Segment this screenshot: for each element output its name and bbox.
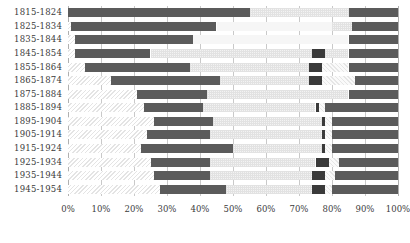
bar-segment-hatch bbox=[68, 185, 160, 194]
stacked-bar bbox=[68, 117, 398, 126]
bar-segment-lightdot bbox=[226, 185, 312, 194]
bar-segment-dark bbox=[325, 103, 398, 112]
stacked-bar bbox=[68, 76, 398, 85]
x-axis-tick-label: 60% bbox=[257, 204, 276, 214]
x-axis-tick-label: 100% bbox=[386, 204, 410, 214]
y-axis-label: 1855-1864 bbox=[14, 63, 62, 72]
x-axis-tick-label: 40% bbox=[191, 204, 210, 214]
stacked-bar bbox=[68, 158, 398, 167]
bar-segment-dark bbox=[111, 76, 220, 85]
y-axis-label: 1875-1884 bbox=[14, 90, 62, 99]
bar-row bbox=[68, 90, 398, 99]
bar-segment-hatch bbox=[68, 117, 154, 126]
bar-segment-lightdot bbox=[203, 103, 315, 112]
bar-segment-hatch bbox=[68, 158, 151, 167]
bar-segment-hatchr bbox=[319, 103, 326, 112]
plot-area bbox=[68, 6, 398, 196]
y-axis-label: 1885-1894 bbox=[14, 103, 62, 112]
bar-segment-hatchr bbox=[325, 130, 332, 139]
bar-segment-dark bbox=[75, 49, 151, 58]
x-axis-tick-label: 50% bbox=[224, 204, 243, 214]
y-axis-label: 1895-1904 bbox=[14, 117, 62, 126]
bar-segment-hatchr bbox=[325, 144, 332, 153]
bar-segment-dark bbox=[147, 130, 210, 139]
stacked-bar bbox=[68, 130, 398, 139]
bar-segment-lightdot bbox=[233, 144, 322, 153]
bar-row bbox=[68, 144, 398, 153]
stacked-bar bbox=[68, 171, 398, 180]
stacked-bar bbox=[68, 35, 398, 44]
bar-segment-lightdot bbox=[210, 171, 312, 180]
bar-segment-dark bbox=[154, 117, 213, 126]
bar-segment-hatchr bbox=[322, 76, 355, 85]
x-axis-tick-label: 10% bbox=[92, 204, 111, 214]
stacked-bar bbox=[68, 144, 398, 153]
bar-segment-dark bbox=[335, 171, 398, 180]
bar-segment-hatch bbox=[68, 103, 144, 112]
bar-segment-lightdot bbox=[207, 90, 349, 99]
bar-segment-dark bbox=[154, 171, 210, 180]
bar-segment-hatch bbox=[68, 76, 111, 85]
bar-segment-lightdot bbox=[151, 49, 313, 58]
bar-segment-hatch bbox=[68, 171, 154, 180]
bar-segment-dark bbox=[349, 63, 399, 72]
x-axis-tick-label: 0% bbox=[61, 204, 75, 214]
bar-segment-hatch bbox=[68, 144, 141, 153]
bar-segment-dark2 bbox=[312, 185, 325, 194]
bar-segment-dark bbox=[339, 158, 398, 167]
bar-row bbox=[68, 158, 398, 167]
bar-segment-dark bbox=[332, 117, 398, 126]
y-axis-label: 1845-1854 bbox=[14, 49, 62, 58]
bar-segment-dark bbox=[349, 49, 399, 58]
bar-segment-dark bbox=[355, 76, 398, 85]
x-axis-tick-label: 90% bbox=[356, 204, 375, 214]
bar-row bbox=[68, 49, 398, 58]
bar-segment-dark2 bbox=[312, 49, 325, 58]
bar-segment-dark bbox=[68, 8, 250, 17]
bar-row bbox=[68, 22, 398, 31]
bar-rows bbox=[68, 6, 398, 196]
bar-row bbox=[68, 130, 398, 139]
bar-segment-hatchr bbox=[325, 117, 332, 126]
x-axis-percent-labels: 0%10%20%30%40%50%60%70%80%90%100% bbox=[68, 204, 398, 220]
bar-segment-lightdot bbox=[210, 158, 316, 167]
bar-segment-dark2 bbox=[312, 171, 325, 180]
stacked-bar bbox=[68, 22, 398, 31]
bar-segment-lightdot bbox=[190, 63, 309, 72]
bar-row bbox=[68, 8, 398, 17]
stacked-bar bbox=[68, 8, 398, 17]
bar-segment-lightdot bbox=[332, 22, 352, 31]
bar-segment-dark bbox=[85, 63, 191, 72]
bar-segment-dark bbox=[160, 185, 226, 194]
stacked-bar bbox=[68, 90, 398, 99]
bar-segment-lightdot bbox=[325, 49, 348, 58]
bar-segment-lightdot bbox=[220, 76, 309, 85]
bar-segment-dark bbox=[71, 22, 216, 31]
bar-row bbox=[68, 117, 398, 126]
y-axis-label: 1905-1914 bbox=[14, 130, 62, 139]
stacked-bar bbox=[68, 63, 398, 72]
bar-segment-dark bbox=[332, 130, 398, 139]
stacked-bar bbox=[68, 103, 398, 112]
y-axis-label: 1935-1944 bbox=[14, 171, 62, 180]
x-axis-tick-label: 80% bbox=[323, 204, 342, 214]
bar-segment-dark bbox=[332, 144, 398, 153]
bar-segment-lightdot bbox=[213, 117, 322, 126]
bar-segment-hatch bbox=[68, 35, 75, 44]
bar-segment-dark bbox=[75, 35, 194, 44]
bar-segment-hatch bbox=[68, 49, 75, 58]
bar-segment-hatch bbox=[68, 63, 85, 72]
bar-segment-dark bbox=[352, 22, 398, 31]
bar-segment-pale bbox=[217, 22, 333, 31]
bar-segment-hatch bbox=[68, 130, 147, 139]
stacked-bar bbox=[68, 49, 398, 58]
bar-segment-dark bbox=[141, 144, 233, 153]
bar-segment-dark bbox=[332, 185, 398, 194]
bar-row bbox=[68, 76, 398, 85]
bar-segment-hatchr bbox=[325, 171, 335, 180]
bar-segment-hatchr bbox=[322, 63, 348, 72]
bar-segment-dark bbox=[349, 8, 399, 17]
bar-segment-dark2 bbox=[316, 158, 329, 167]
bar-segment-hatchr bbox=[329, 158, 339, 167]
bar-segment-hatch bbox=[68, 90, 137, 99]
